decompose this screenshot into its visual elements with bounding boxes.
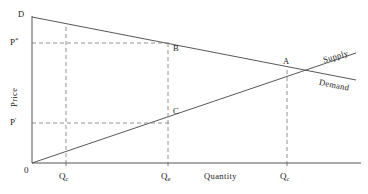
annotation-point-c-text: C: [173, 106, 179, 116]
origin-label-text: 0: [24, 165, 29, 175]
supply-demand-chart: D Price P* P' 0 Qc Qe Quantity Qc B C A: [0, 0, 368, 194]
x-tick-label-qe-base: Q: [161, 171, 168, 181]
annotation-point-c: C: [173, 107, 179, 116]
chart-canvas: [0, 0, 368, 194]
x-tick-label-qc-right-sub: c: [287, 175, 290, 182]
annotation-point-d: D: [18, 10, 24, 19]
x-tick-label-qc-left-base: Q: [59, 171, 66, 181]
x-tick-label-qe: Qe: [161, 172, 170, 181]
x-tick-label-qc-left: Qc: [59, 172, 68, 181]
y-tick-label-p-prime-mark: ': [15, 116, 16, 124]
y-tick-label-p-star: P*: [10, 38, 19, 47]
x-axis-title: Quantity: [204, 172, 237, 181]
annotation-point-a-text: A: [283, 56, 289, 66]
annotation-point-a: A: [283, 57, 289, 66]
y-tick-label-p-star-mark: *: [15, 36, 19, 44]
supply-curve: [32, 53, 356, 163]
y-axis-title: Price: [10, 88, 19, 107]
x-tick-label-qc-right-base: Q: [280, 171, 287, 181]
y-tick-label-p-prime: P': [10, 118, 16, 127]
annotation-point-b: B: [173, 44, 179, 53]
demand-curve: [32, 17, 356, 80]
y-axis-title-text: Price: [9, 88, 19, 107]
x-axis-title-text: Quantity: [204, 171, 237, 181]
x-tick-label-qc-right: Qc: [280, 172, 289, 181]
annotation-point-b-text: B: [173, 43, 179, 53]
x-tick-label-qe-sub: e: [168, 175, 171, 182]
x-tick-label-qc-left-sub: c: [66, 175, 69, 182]
origin-label: 0: [24, 166, 29, 175]
annotation-point-d-text: D: [18, 9, 24, 19]
